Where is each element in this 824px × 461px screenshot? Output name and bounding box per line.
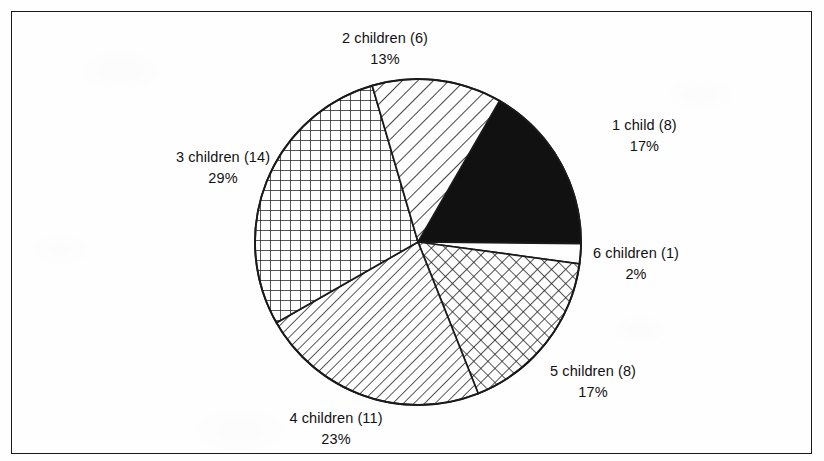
- slice-label-5-children-name: 5 children (8): [550, 361, 636, 382]
- slice-label-1-child-percent: 17%: [612, 136, 677, 157]
- slice-label-4-children-name: 4 children (11): [289, 408, 382, 429]
- slice-label-6-children: 6 children (1) 2%: [593, 243, 679, 284]
- pie-slice-group: [255, 79, 581, 405]
- slice-label-2-children-name: 2 children (6): [342, 28, 428, 49]
- slice-label-2-children-percent: 13%: [342, 49, 428, 70]
- slice-label-3-children-name: 3 children (14): [176, 147, 270, 168]
- slice-label-4-children-percent: 23%: [289, 429, 382, 450]
- slice-label-6-children-name: 6 children (1): [593, 243, 679, 264]
- slice-label-3-children-percent: 29%: [176, 168, 270, 189]
- slice-label-3-children: 3 children (14) 29%: [176, 147, 270, 188]
- slice-label-1-child-name: 1 child (8): [612, 115, 677, 136]
- slice-label-1-child: 1 child (8) 17%: [612, 115, 677, 156]
- slice-label-2-children: 2 children (6) 13%: [342, 28, 428, 69]
- chart-page: 2 children (6) 13% 1 child (8) 17% 6 chi…: [0, 0, 824, 461]
- slice-label-5-children: 5 children (8) 17%: [550, 361, 636, 402]
- slice-label-5-children-percent: 17%: [550, 382, 636, 403]
- slice-label-6-children-percent: 2%: [593, 264, 679, 285]
- slice-label-4-children: 4 children (11) 23%: [289, 408, 382, 449]
